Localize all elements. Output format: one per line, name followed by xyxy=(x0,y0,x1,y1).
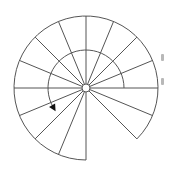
edge-mark xyxy=(161,54,164,61)
center-newel-post xyxy=(82,84,90,92)
spiral-staircase-diagram xyxy=(0,0,170,170)
edge-mark xyxy=(161,78,164,85)
tread-line xyxy=(89,91,137,139)
tread-line xyxy=(35,91,83,139)
tread-line xyxy=(58,92,84,155)
tread-line xyxy=(90,90,153,116)
